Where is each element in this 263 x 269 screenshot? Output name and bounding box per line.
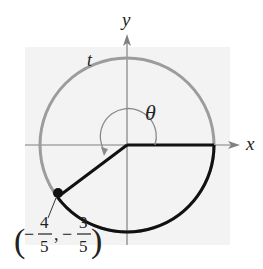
- unit-circle-diagram: y x t θ ( − 4 5 , − 3 5 ): [0, 0, 263, 269]
- y-sign: −: [62, 224, 72, 244]
- angle-label-theta: θ: [145, 100, 156, 125]
- y-denominator: 5: [79, 237, 88, 256]
- comma: ,: [54, 224, 59, 244]
- x-axis-label: x: [245, 133, 255, 154]
- x-denominator: 5: [40, 237, 49, 256]
- close-paren: ): [91, 222, 102, 260]
- point-dot: [53, 188, 63, 198]
- y-axis-label: y: [120, 9, 131, 30]
- x-numerator: 4: [40, 213, 49, 232]
- x-sign: −: [24, 224, 34, 244]
- y-numerator: 3: [79, 213, 88, 232]
